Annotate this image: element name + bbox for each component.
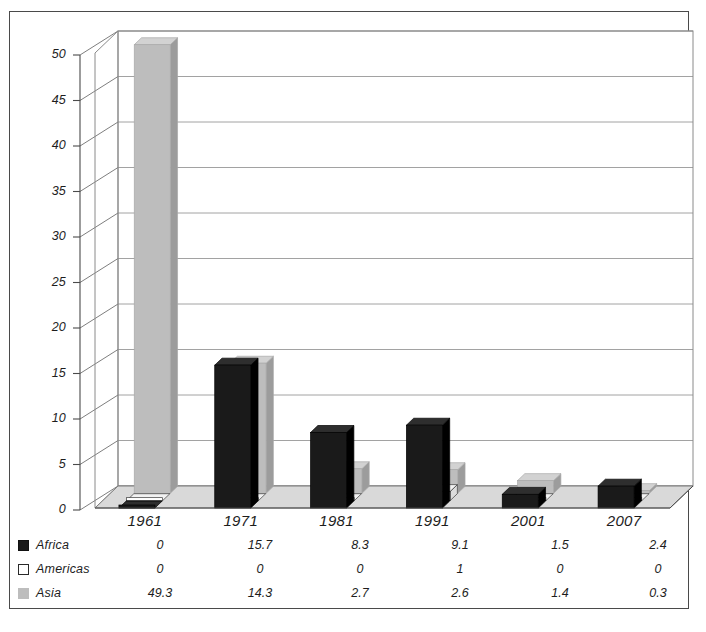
table-cell: 8.3 [310,538,410,552]
table-cell: 0.3 [610,586,706,600]
bar-africa-2001 [502,487,545,508]
y-tick-label: 25 [36,275,66,289]
bar-asia-1961 [134,38,177,494]
gray-square-icon [18,588,29,599]
x-tick-label-2007: 2007 [564,512,684,529]
y-tick-label: 0 [36,502,66,516]
table-cell: 49.3 [110,586,210,600]
table-cell: 1.5 [510,538,610,552]
table-cell: 0 [510,562,610,576]
y-tick-label: 50 [36,47,66,61]
bar-americas-1961 [127,494,170,501]
filled-square-icon [18,540,29,551]
table-cell: 2.6 [410,586,510,600]
table-cell: 14.3 [210,586,310,600]
series-label: Asia [36,586,61,600]
hollow-square-icon [18,564,29,575]
y-tick-label: 30 [36,229,66,243]
table-row: Americas000100 [18,557,682,581]
y-tick-label: 10 [36,411,66,425]
table-cell: 0 [110,538,210,552]
table-row: Asia49.314.32.72.61.40.3 [18,581,682,605]
y-tick-label: 45 [36,93,66,107]
table-cell: 2.4 [610,538,706,552]
table-row-legend: Africa [18,538,110,552]
series-label: Africa [36,538,69,552]
table-cell: 15.7 [210,538,310,552]
chart-data-table: Africa015.78.39.11.52.4Americas000100Asi… [18,533,682,605]
bar-africa-1991 [406,418,449,508]
bar-africa-1971 [215,358,258,508]
y-tick-label: 40 [36,138,66,152]
table-cell: 0 [310,562,410,576]
y-tick-label: 20 [36,320,66,334]
y-tick-label: 35 [36,184,66,198]
table-cell: 2.7 [310,586,410,600]
y-tick-label: 5 [36,457,66,471]
table-cell: 0 [110,562,210,576]
table-cell: 1 [410,562,510,576]
table-cell: 0 [210,562,310,576]
table-cell: 1.4 [510,586,610,600]
table-row: Africa015.78.39.11.52.4 [18,533,682,557]
bar-africa-2007 [598,479,641,508]
y-tick-label: 15 [36,366,66,380]
bar-africa-1981 [311,426,354,508]
table-row-legend: Asia [18,586,110,600]
table-cell: 9.1 [410,538,510,552]
table-cell: 0 [610,562,706,576]
bar-africa-1961 [119,501,162,508]
table-row-legend: Americas [18,562,110,576]
series-label: Americas [36,562,90,576]
chart-screenshot: 50454035302520151050 1961197119811991200… [0,0,706,632]
